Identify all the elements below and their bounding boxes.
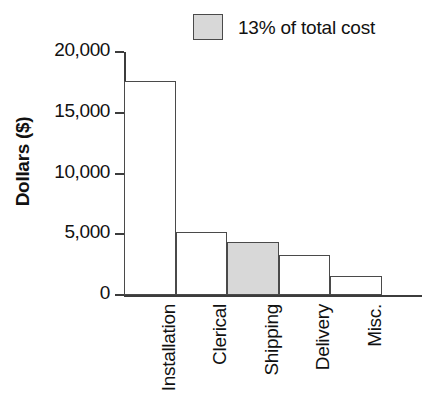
y-axis-tick-label: 20,000 — [54, 40, 110, 59]
y-axis-tick-label: 10,000 — [54, 162, 110, 181]
y-axis-tick-label: 0 — [100, 283, 110, 302]
bar-delivery — [279, 255, 331, 295]
y-axis-tick-label: 15,000 — [54, 101, 110, 120]
bar-shipping — [227, 242, 279, 295]
y-axis-tick: 10,000 — [115, 173, 124, 175]
bar-misc — [330, 276, 382, 295]
legend-label: 13% of total cost — [238, 18, 375, 37]
y-axis-label: Dollars ($) — [13, 97, 32, 227]
x-axis-label-misc: Misc. — [365, 304, 384, 347]
x-axis-label-shipping: Shipping — [262, 304, 281, 376]
chart-legend: 13% of total cost — [193, 14, 375, 40]
bar-installation — [124, 81, 176, 295]
plot-area: 05,00010,00015,00020,000 InstallationCle… — [124, 52, 424, 295]
y-axis-tick-label: 5,000 — [64, 222, 110, 241]
legend-swatch-icon — [193, 14, 223, 40]
x-axis-label-installation: Installation — [159, 304, 178, 391]
y-axis-tick: 5,000 — [115, 233, 124, 235]
x-axis-label-clerical: Clerical — [210, 304, 229, 365]
x-axis-label-delivery: Delivery — [313, 304, 332, 370]
y-axis-tick: 0 — [115, 294, 124, 296]
x-axis-line — [124, 295, 422, 297]
y-axis-tick: 20,000 — [115, 51, 124, 53]
bar-chart: 13% of total cost Dollars ($) 05,00010,0… — [0, 0, 440, 413]
bar-clerical — [176, 232, 228, 295]
y-axis-tick: 15,000 — [115, 112, 124, 114]
